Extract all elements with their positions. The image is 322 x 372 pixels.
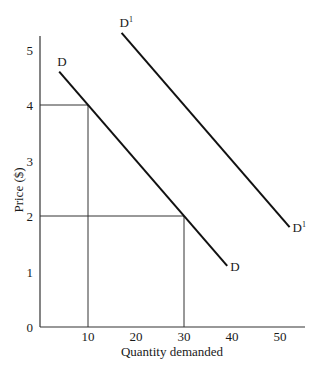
y-tick-label: 5 (27, 43, 34, 58)
y-tick-label: 0 (27, 320, 34, 335)
y-tick-label: 2 (27, 209, 34, 224)
x-tick-label: 20 (130, 329, 143, 344)
y-tick-label: 3 (27, 154, 34, 169)
tick-labels: 0123451020304050 (27, 43, 287, 345)
curve-d1-start-label: D1 (120, 15, 133, 30)
curve-d1-end-label: D1 (293, 220, 306, 235)
curve-d-end-label: D (230, 259, 239, 274)
curve-d-start-label: D (57, 54, 66, 69)
demand-curve-chart: 0123451020304050 Quantity demanded Price… (0, 0, 322, 372)
curve-d1-line (122, 33, 290, 227)
x-tick-label: 10 (82, 329, 95, 344)
y-axis-label: Price ($) (11, 167, 26, 212)
curve-d-line (59, 72, 227, 266)
axes (40, 36, 305, 327)
x-tick-label: 40 (226, 329, 239, 344)
x-tick-label: 30 (178, 329, 191, 344)
y-tick-label: 1 (27, 265, 34, 280)
axis-labels: Quantity demanded Price ($) (11, 167, 224, 359)
curve-labels: DDD1D1 (57, 15, 306, 274)
series-lines (59, 33, 289, 266)
y-tick-label: 4 (27, 98, 34, 113)
x-axis-label: Quantity demanded (121, 344, 224, 359)
x-tick-label: 50 (274, 329, 287, 344)
reference-lines (40, 105, 184, 327)
